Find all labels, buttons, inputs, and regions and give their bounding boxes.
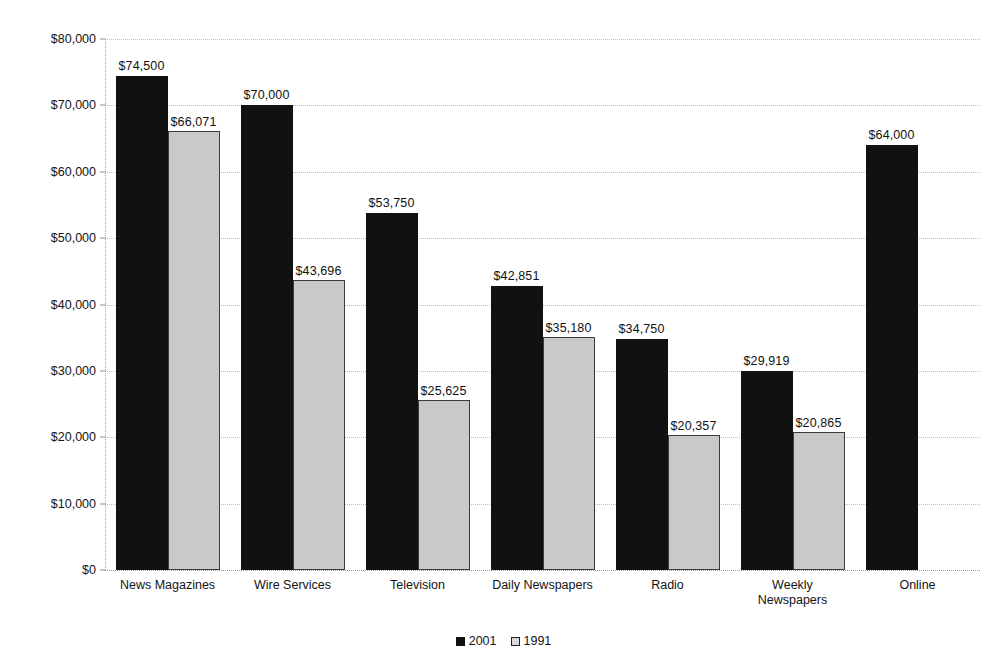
- x-axis-category-label: Weekly Newspapers: [730, 578, 855, 608]
- bar-1991: $20,865: [793, 432, 845, 570]
- bar-value-label: $70,000: [244, 88, 290, 102]
- bar-value-label: $42,851: [494, 269, 540, 283]
- bar-2001: $53,750: [366, 213, 418, 570]
- bar-group: $42,851$35,180: [491, 39, 595, 570]
- y-axis-tick-label: $20,000: [0, 430, 96, 444]
- x-axis-category-label: Television: [355, 578, 480, 593]
- legend-swatch-icon: [511, 637, 520, 646]
- legend-item-1991[interactable]: 1991: [511, 634, 552, 648]
- y-axis-tick-label: $60,000: [0, 165, 96, 179]
- bar-value-label: $34,750: [619, 322, 665, 336]
- bar-value-label: $35,180: [546, 321, 592, 335]
- bar-2001: $29,919: [741, 371, 793, 570]
- bar-value-label: $20,865: [796, 416, 842, 430]
- bar-value-label: $43,696: [296, 264, 342, 278]
- bar-2001: $74,500: [116, 76, 168, 570]
- bar-1991: $35,180: [543, 337, 595, 571]
- x-axis-category-label: Wire Services: [230, 578, 355, 593]
- bar-value-label: $64,000: [869, 128, 915, 142]
- bar-value-label: $53,750: [369, 196, 415, 210]
- x-axis-category-label: News Magazines: [105, 578, 230, 593]
- bar-1991: $43,696: [293, 280, 345, 570]
- bar-group: $34,750$20,357: [616, 39, 720, 570]
- bar-group: $29,919$20,865: [741, 39, 845, 570]
- bar-group: $64,000: [866, 39, 970, 570]
- bar-value-label: $25,625: [421, 384, 467, 398]
- y-axis-tick-label: $70,000: [0, 98, 96, 112]
- bar-1991: $66,071: [168, 131, 220, 570]
- bar-value-label: $20,357: [671, 419, 717, 433]
- plot-area: $74,500$66,071$70,000$43,696$53,750$25,6…: [105, 39, 980, 570]
- bar-group: $74,500$66,071: [116, 39, 220, 570]
- bar-1991: $25,625: [418, 400, 470, 570]
- legend-label: 2001: [469, 634, 497, 648]
- bar-chart: $0$10,000$20,000$30,000$40,000$50,000$60…: [0, 0, 1007, 670]
- y-axis-tick-label: $10,000: [0, 497, 96, 511]
- bar-2001: $42,851: [491, 286, 543, 570]
- bar-2001: $70,000: [241, 105, 293, 570]
- x-axis-category-label: Radio: [605, 578, 730, 593]
- bar-value-label: $29,919: [744, 354, 790, 368]
- bar-value-label: $66,071: [171, 115, 217, 129]
- legend-label: 1991: [524, 634, 552, 648]
- bar-value-label: $74,500: [119, 59, 165, 73]
- y-axis-tick-label: $80,000: [0, 32, 96, 46]
- bar-2001: $34,750: [616, 339, 668, 570]
- x-axis-line: [105, 570, 980, 571]
- chart-legend: 20011991: [0, 634, 1007, 648]
- bar-group: $70,000$43,696: [241, 39, 345, 570]
- y-axis-tick-label: $40,000: [0, 298, 96, 312]
- x-axis-category-label: Online: [855, 578, 980, 593]
- y-axis-line: [105, 39, 106, 570]
- bar-2001: $64,000: [866, 145, 918, 570]
- y-axis-tick-label: $0: [0, 563, 96, 577]
- y-axis-tick-label: $30,000: [0, 364, 96, 378]
- legend-item-2001[interactable]: 2001: [456, 634, 497, 648]
- bar-1991: $20,357: [668, 435, 720, 570]
- legend-swatch-icon: [456, 637, 465, 646]
- y-axis-tick-label: $50,000: [0, 231, 96, 245]
- x-axis-category-label: Daily Newspapers: [480, 578, 605, 593]
- bar-group: $53,750$25,625: [366, 39, 470, 570]
